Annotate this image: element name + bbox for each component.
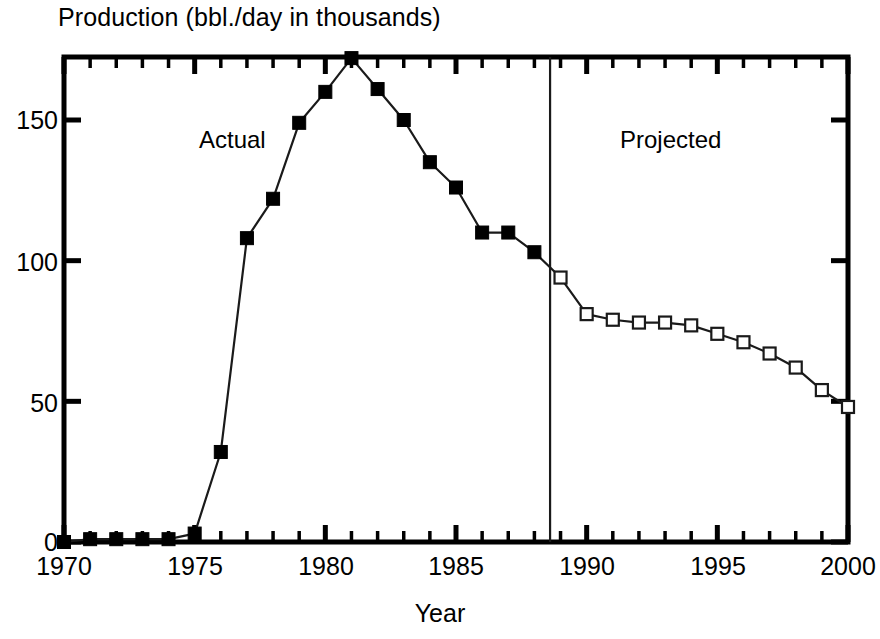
- data-point-marker: [659, 317, 671, 329]
- data-point-marker: [293, 116, 306, 129]
- data-point-marker: [685, 319, 697, 331]
- data-point-marker: [790, 362, 802, 374]
- data-point-marker: [136, 533, 149, 546]
- data-point-marker: [162, 533, 175, 546]
- data-point-marker: [267, 192, 280, 205]
- y-tick-label-50: 50: [0, 389, 58, 417]
- data-point-marker: [345, 52, 358, 65]
- data-point-marker: [214, 445, 227, 458]
- x-axis-title: Year: [0, 598, 880, 628]
- x-tick-label-1970: 1970: [9, 552, 119, 580]
- plot-area: [0, 0, 880, 639]
- data-point-marker: [397, 114, 410, 127]
- data-point-marker: [581, 308, 593, 320]
- production-chart: Production (bbl./day in thousands) 150 1…: [0, 0, 880, 639]
- x-tick-label-1975: 1975: [140, 552, 250, 580]
- data-point-marker: [737, 336, 749, 348]
- data-point-marker: [476, 226, 489, 239]
- x-tick-label-1980: 1980: [271, 552, 381, 580]
- data-point-marker: [502, 226, 515, 239]
- data-point-marker: [188, 527, 201, 540]
- y-tick-label-100: 100: [0, 248, 58, 276]
- data-point-marker: [110, 533, 123, 546]
- data-point-marker: [528, 246, 541, 259]
- data-point-marker: [816, 384, 828, 396]
- annotation-projected: Projected: [620, 126, 721, 154]
- data-point-marker: [842, 401, 854, 413]
- x-tick-label-1990: 1990: [532, 552, 642, 580]
- x-tick-label-2000: 2000: [793, 552, 880, 580]
- annotation-actual: Actual: [199, 126, 266, 154]
- data-point-marker: [450, 181, 463, 194]
- data-point-marker: [240, 232, 253, 245]
- x-tick-label-1995: 1995: [663, 552, 773, 580]
- y-tick-label-150: 150: [0, 106, 58, 134]
- data-point-marker: [555, 272, 567, 284]
- data-point-marker: [764, 348, 776, 360]
- data-point-marker: [84, 533, 97, 546]
- x-tick-label-1985: 1985: [401, 552, 511, 580]
- data-point-marker: [711, 328, 723, 340]
- data-point-marker: [423, 156, 436, 169]
- data-point-marker: [58, 536, 71, 549]
- data-point-marker: [371, 83, 384, 96]
- data-point-marker: [607, 314, 619, 326]
- data-point-marker: [319, 85, 332, 98]
- data-point-marker: [633, 317, 645, 329]
